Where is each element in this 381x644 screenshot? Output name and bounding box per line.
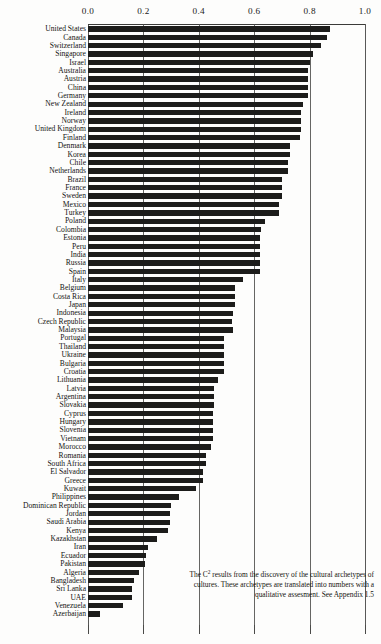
bar <box>88 486 196 491</box>
bar <box>88 511 170 516</box>
bar <box>88 520 170 525</box>
bar-row: Lithuania <box>0 376 381 384</box>
bottom-tick-1.0 <box>365 625 366 634</box>
bar <box>88 294 235 299</box>
bar-row: Mexico <box>0 201 381 209</box>
bar <box>88 377 218 382</box>
bar <box>88 252 260 257</box>
bar <box>88 26 330 31</box>
bar <box>88 168 288 173</box>
bar-row: Czech Republic <box>0 318 381 326</box>
bar <box>88 553 146 558</box>
bar-row: Korea <box>0 150 381 158</box>
bar-row: Estonia <box>0 234 381 242</box>
bar <box>88 143 290 148</box>
bar <box>88 402 214 407</box>
bar-row: Kazakhstan <box>0 535 381 543</box>
x-tick-0.2: 0.2 <box>137 6 149 16</box>
bar-row: Spain <box>0 267 381 275</box>
bar <box>88 311 233 316</box>
bar <box>88 110 301 115</box>
bar-row: Colombia <box>0 226 381 234</box>
bar <box>88 68 308 73</box>
bar <box>88 210 279 215</box>
bar <box>88 102 303 107</box>
bar <box>88 545 148 550</box>
bar <box>88 336 224 341</box>
x-tick-1.0: 1.0 <box>359 6 371 16</box>
bar <box>88 193 282 198</box>
bar <box>88 394 214 399</box>
bottom-tick-0.8 <box>310 625 311 634</box>
bar-row: Israel <box>0 58 381 66</box>
bar-row: United States <box>0 25 381 33</box>
bar-row: Hungary <box>0 418 381 426</box>
bar <box>88 478 203 483</box>
caption-body: results from the discovery of the cultur… <box>194 570 374 599</box>
bar <box>88 453 206 458</box>
bar-row: Argentina <box>0 393 381 401</box>
bar-row: Thailand <box>0 343 381 351</box>
bar-row: India <box>0 251 381 259</box>
bar <box>88 411 213 416</box>
bar <box>88 494 179 499</box>
bottom-tick-0.4 <box>199 625 200 634</box>
bar-row: Singapore <box>0 50 381 58</box>
bar <box>88 561 145 566</box>
x-tick-0.0: 0.0 <box>82 6 94 16</box>
bar <box>88 344 224 349</box>
bar <box>88 76 308 81</box>
bar-row: Italy <box>0 276 381 284</box>
bar-row: Denmark <box>0 142 381 150</box>
bar-row: Azerbaijan <box>0 610 381 618</box>
bar <box>88 269 260 274</box>
bar-row: France <box>0 184 381 192</box>
bar <box>88 85 308 90</box>
bar <box>88 160 288 165</box>
bar <box>88 93 308 98</box>
bar <box>88 444 211 449</box>
bar <box>88 35 327 40</box>
bar-row: Dominican Republic <box>0 502 381 510</box>
bar-row: Cyprus <box>0 410 381 418</box>
bar-row: Malaysia <box>0 326 381 334</box>
bar-row: Austria <box>0 75 381 83</box>
bar <box>88 436 213 441</box>
bar <box>88 528 168 533</box>
bar-row: Saudi Arabia <box>0 518 381 526</box>
bottom-tick-0.6 <box>254 625 255 634</box>
bar <box>88 302 235 307</box>
bar <box>88 586 132 591</box>
bar-row: Ireland <box>0 109 381 117</box>
x-tick-0.6: 0.6 <box>248 6 260 16</box>
bar-row: United Kingdom <box>0 125 381 133</box>
bar <box>88 361 224 366</box>
bar-row: Ukraine <box>0 351 381 359</box>
bar-row: New Zealand <box>0 100 381 108</box>
bar <box>88 570 139 575</box>
bar <box>88 503 171 508</box>
bar <box>88 244 260 249</box>
chart-caption: The C2 results from the discovery of the… <box>186 570 374 601</box>
bottom-tick-0.0 <box>88 625 89 634</box>
x-tick-0.8: 0.8 <box>303 6 315 16</box>
bar <box>88 202 279 207</box>
bar-row: El Salvador <box>0 468 381 476</box>
bar <box>88 603 123 608</box>
bar-row: Greece <box>0 476 381 484</box>
bar-row: Morocco <box>0 443 381 451</box>
bar-row: Brazil <box>0 175 381 183</box>
bar-row: Russia <box>0 259 381 267</box>
bar-row: Portugal <box>0 334 381 342</box>
bar <box>88 595 132 600</box>
bar <box>88 235 260 240</box>
bar <box>88 177 282 182</box>
bar <box>88 327 233 332</box>
bar <box>88 227 261 232</box>
bar-row: Bulgaria <box>0 359 381 367</box>
bar <box>88 386 214 391</box>
bar-row: Slovenia <box>0 426 381 434</box>
bar <box>88 578 134 583</box>
bar-chart: 0.00.20.40.60.81.0 United StatesCanadaSw… <box>0 0 381 644</box>
bar-row: Costa Rica <box>0 293 381 301</box>
